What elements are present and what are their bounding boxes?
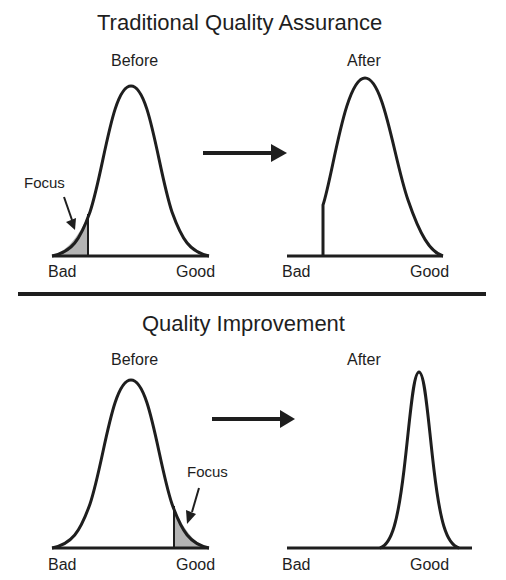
- top-before-axis-bad: Bad: [48, 264, 76, 280]
- top-after-axis-good: Good: [410, 264, 449, 280]
- bottom-after-curve: [380, 372, 459, 548]
- top-before-axis-good: Good: [176, 264, 215, 280]
- bottom-before-chart: [52, 380, 209, 548]
- pointer-arrow-icon: [192, 488, 199, 512]
- top-focus-label: Focus: [24, 175, 65, 190]
- pointer-arrow-icon: [64, 197, 72, 220]
- bottom-before-curve: [52, 380, 209, 548]
- bottom-after-axis-bad: Bad: [282, 557, 310, 573]
- top-before-curve: [52, 86, 209, 256]
- pointer-arrow-head-icon: [186, 510, 196, 524]
- top-before-chart: [52, 86, 209, 256]
- top-before-label: Before: [111, 53, 158, 69]
- right-arrow-icon: [203, 144, 287, 162]
- bottom-before-axis-good: Good: [176, 557, 215, 573]
- bottom-before-label: Before: [111, 352, 158, 368]
- bottom-after-label: After: [347, 352, 381, 368]
- bottom-section-title: Quality Improvement: [142, 313, 345, 335]
- top-section-title: Traditional Quality Assurance: [97, 12, 382, 34]
- top-after-curve: [323, 78, 443, 256]
- right-arrow-icon: [212, 410, 295, 428]
- bottom-after-axis-good: Good: [410, 557, 449, 573]
- diagram-canvas: [0, 0, 506, 580]
- top-after-label: After: [347, 53, 381, 69]
- bottom-after-chart: [287, 372, 472, 548]
- bottom-focus-label: Focus: [187, 464, 228, 479]
- bottom-before-axis-bad: Bad: [48, 557, 76, 573]
- top-after-axis-bad: Bad: [282, 264, 310, 280]
- top-after-chart: [287, 78, 443, 256]
